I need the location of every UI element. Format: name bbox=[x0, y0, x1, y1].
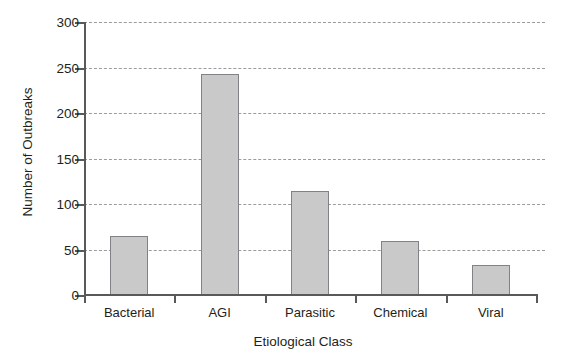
x-axis-tick bbox=[265, 294, 267, 303]
bar bbox=[291, 191, 329, 295]
gridline bbox=[84, 68, 545, 69]
x-axis-line bbox=[84, 294, 536, 296]
x-axis-tick bbox=[174, 294, 176, 303]
bar bbox=[110, 236, 148, 295]
x-axis-tick bbox=[446, 294, 448, 303]
y-axis-line bbox=[84, 22, 86, 295]
bar-chart: Number of Outbreaks 050100150200250300 E… bbox=[0, 0, 564, 363]
x-axis-title: Etiological Class bbox=[0, 334, 564, 349]
x-category-label: Viral bbox=[478, 305, 504, 320]
x-axis-tick bbox=[536, 294, 538, 303]
x-category-label: AGI bbox=[208, 305, 230, 320]
x-category-label: Chemical bbox=[373, 305, 427, 320]
x-axis-tick bbox=[84, 294, 86, 303]
y-tick-label: 0 bbox=[71, 288, 79, 303]
y-axis-title-text: Number of Outbreaks bbox=[20, 87, 35, 216]
plot-area: 050100150200250300 bbox=[84, 22, 536, 295]
gridline bbox=[84, 22, 545, 23]
bar bbox=[472, 265, 510, 295]
bar bbox=[381, 241, 419, 295]
x-axis-title-text: Etiological Class bbox=[211, 334, 352, 349]
y-tick-label: 150 bbox=[56, 151, 79, 166]
y-tick-label: 250 bbox=[56, 60, 79, 75]
gridline bbox=[84, 159, 545, 160]
y-axis-title: Number of Outbreaks bbox=[14, 8, 40, 296]
bar bbox=[201, 74, 239, 295]
gridline bbox=[84, 113, 545, 114]
y-tick-label: 100 bbox=[56, 197, 79, 212]
x-category-label: Bacterial bbox=[104, 305, 155, 320]
x-category-label: Parasitic bbox=[285, 305, 335, 320]
y-tick-label: 200 bbox=[56, 106, 79, 121]
y-tick-label: 300 bbox=[56, 15, 79, 30]
x-axis-tick bbox=[355, 294, 357, 303]
y-tick-label: 50 bbox=[64, 242, 79, 257]
